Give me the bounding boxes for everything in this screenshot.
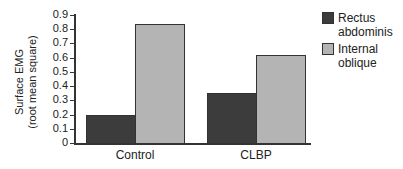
y-tick-label: 0.5 xyxy=(46,66,68,77)
y-axis-title-line2: (root mean square) xyxy=(26,35,39,129)
y-axis-line xyxy=(74,14,76,144)
y-tick-label: 0.6 xyxy=(46,52,68,63)
y-tick-label: 0.9 xyxy=(46,9,68,20)
legend-label: Internal xyxy=(338,42,378,56)
y-axis-title-line1: Surface EMG xyxy=(13,35,26,129)
legend-swatch-dark xyxy=(322,12,334,24)
legend-label: oblique xyxy=(338,56,378,70)
y-tick-label: 0 xyxy=(46,137,68,148)
legend-label: Rectus xyxy=(338,11,393,25)
y-tick-label: 0.8 xyxy=(46,23,68,34)
y-tick-label: 0.7 xyxy=(46,37,68,48)
category-label-clbp: CLBP xyxy=(216,148,296,162)
legend-swatch-light xyxy=(322,43,334,55)
y-tick-label: 0.4 xyxy=(46,80,68,91)
bar-control-rectus-abdominis xyxy=(86,115,136,144)
y-tick-label: 0.3 xyxy=(46,94,68,105)
y-tick-label: 0.2 xyxy=(46,109,68,120)
bar-clbp-rectus-abdominis xyxy=(207,93,257,144)
legend-label: abdominis xyxy=(338,25,393,39)
bar-control-internal-oblique xyxy=(135,24,185,144)
y-tick-label: 0.1 xyxy=(46,123,68,134)
y-axis-title: Surface EMG (root mean square) xyxy=(6,22,46,142)
category-label-control: Control xyxy=(95,148,175,162)
bar-clbp-internal-oblique xyxy=(256,55,306,144)
